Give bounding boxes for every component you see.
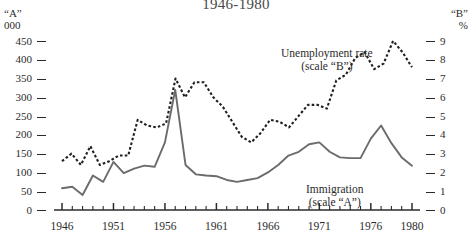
legend-unemployment-line1: Unemployment rate — [281, 47, 373, 60]
series-line-immigration — [62, 90, 412, 195]
chart-figure: 1946-1980 “A” 000 “B” % 4504003503002502… — [0, 0, 472, 243]
legend-immigration-line1: Immigration — [306, 183, 364, 196]
x-axis — [54, 203, 420, 210]
legend-immigration: Immigration (scale “A”) — [306, 183, 364, 209]
legend-unemployment: Unemployment rate (scale “B”) — [281, 47, 373, 73]
legend-unemployment-line2: (scale “B”) — [281, 60, 373, 73]
plot-area — [0, 0, 472, 243]
legend-immigration-line2: (scale “A”) — [306, 196, 364, 209]
